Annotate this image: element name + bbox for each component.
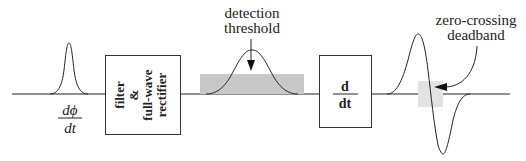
block-label-line-3: full-wave <box>140 69 155 121</box>
threshold-label-line-1: detection <box>225 5 280 21</box>
differentiator-denominator: dt <box>339 96 352 111</box>
input-label-numerator: dϕ <box>62 102 78 118</box>
deadband-label-line-2: deadband <box>447 27 505 43</box>
input-label: dϕ dt <box>58 102 82 136</box>
block-label-line-2: & <box>126 89 141 100</box>
input-label-denominator: dt <box>64 120 77 136</box>
block-label-line-1: filter <box>112 81 127 109</box>
differentiator-numerator: d <box>341 79 349 94</box>
input-pulse-waveform <box>50 43 88 94</box>
differentiator-block: d dt <box>320 56 372 128</box>
deadband-label-line-1: zero-crossing <box>436 12 517 28</box>
block-label-line-4: rectifier <box>154 73 169 118</box>
filter-rectifier-block: filter & full-wave rectifier <box>106 56 181 135</box>
deadband-arrow-shaft <box>446 46 477 87</box>
threshold-label-line-2: threshold <box>224 20 280 36</box>
threshold-region <box>200 74 304 94</box>
threshold-arrow-head-icon <box>247 60 255 71</box>
signal-chain-diagram: dϕ dt filter & full-wave rectifier detec… <box>0 0 526 161</box>
